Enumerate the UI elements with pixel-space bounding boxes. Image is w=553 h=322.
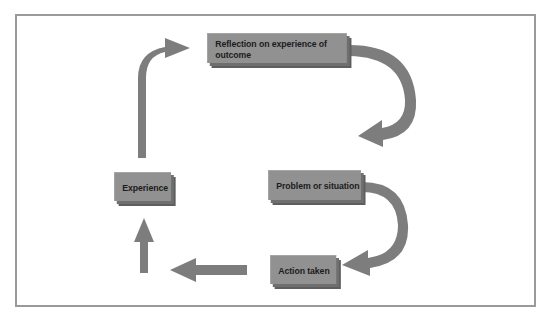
arrow-up-to-experience	[134, 218, 154, 273]
node-label: Problem or situation	[276, 180, 359, 191]
arrow-reflection-to-problem	[349, 45, 416, 147]
arrow-experience-to-reflection	[138, 38, 190, 158]
node-problem: Problem or situation	[268, 170, 361, 200]
node-experience: Experience	[114, 172, 171, 201]
arrow-action-to-experience	[170, 258, 247, 282]
node-label: Experience	[122, 182, 168, 193]
node-label: Action taken	[278, 265, 329, 276]
node-action: Action taken	[270, 255, 336, 284]
node-label: Reflection on experience of outcome	[215, 38, 347, 60]
node-reflection: Reflection on experience of outcome	[207, 33, 347, 63]
